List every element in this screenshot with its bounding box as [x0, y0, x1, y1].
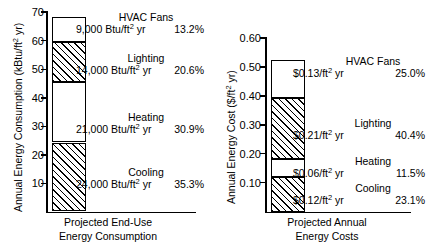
y-tick-label-040: 0.40	[229, 90, 261, 102]
y-tick-10	[41, 183, 46, 185]
annotation-lighting-value-suffix: yr	[140, 64, 152, 76]
annotation-heating-row: 21,000 Btu/ft2 yr30.9%	[76, 123, 216, 135]
y-axis-line	[46, 11, 48, 213]
annotation-lighting-row: $0.21/ft2 yr40.4%	[293, 129, 431, 141]
annotation-lighting-percent: 20.6%	[164, 64, 204, 76]
y-tick-50	[41, 69, 46, 71]
y-tick-20	[41, 154, 46, 156]
y-tick-030	[260, 124, 265, 126]
x-axis-caption-left: Projected End-Use Energy Consumption	[28, 216, 188, 243]
annotation-cooling: Cooling $0.12/ft2 yr23.1%	[293, 182, 431, 206]
annotation-heating-value: 21,000 Btu/ft	[76, 123, 136, 135]
annotation-cooling-percent: 23.1%	[385, 194, 425, 206]
annotation-hvac-fans-percent: 13.2%	[164, 23, 204, 35]
annotation-hvac-fans-value: $0.13/ft	[293, 67, 328, 79]
annotation-hvac-fans-value: 9,000 Btu/ft	[76, 23, 130, 35]
annotation-hvac-fans: HVAC Fans $0.13/ft2 yr25.0%	[293, 55, 431, 79]
annotation-heating-value: $0.06/ft	[293, 167, 328, 179]
annotation-cooling-percent: 35.3%	[164, 178, 204, 190]
y-tick-label-030: 0.30	[229, 119, 261, 131]
y-tick-label-020: 0.20	[229, 148, 261, 160]
annotation-cooling-row: 24,000 Btu/ft2 yr35.3%	[76, 178, 216, 190]
chart-energy-consumption: Annual Energy Consumption (kBtu/ft2 yr) …	[0, 0, 216, 252]
annotation-lighting-value-suffix: yr	[332, 129, 344, 141]
y-tick-label-010: 0.10	[229, 177, 261, 189]
annotation-cooling-label: Cooling	[76, 166, 216, 178]
y-tick-050	[260, 66, 265, 68]
annotation-cooling-label: Cooling	[293, 182, 431, 194]
x-axis-caption-left-line1: Projected End-Use	[64, 216, 152, 228]
annotation-hvac-fans-value-suffix: yr	[134, 23, 146, 35]
x-axis-caption-right-line2: Energy Costs	[295, 230, 358, 242]
annotation-hvac-fans-label: HVAC Fans	[76, 11, 216, 23]
y-tick-040	[260, 95, 265, 97]
y-tick-60	[41, 40, 46, 42]
annotation-lighting-value: 14,000 Btu/ft	[76, 64, 136, 76]
annotation-heating-label: Heating	[76, 111, 216, 123]
annotation-heating-percent: 11.5%	[385, 167, 425, 179]
y-axis-title-left-superscript: 2	[11, 38, 20, 42]
annotation-heating-percent: 30.9%	[164, 123, 204, 135]
chart-energy-cost: Annual Energy Cost ($/ft2 yr) 0.60 0.50 …	[215, 0, 431, 252]
annotation-lighting-label: Lighting	[293, 117, 431, 129]
annotation-cooling-row: $0.12/ft2 yr23.1%	[293, 194, 431, 206]
annotation-heating-row: $0.06/ft2 yr11.5%	[293, 167, 431, 179]
annotation-hvac-fans: HVAC Fans 9,000 Btu/ft2 yr13.2%	[76, 11, 216, 35]
annotation-heating: Heating $0.06/ft2 yr11.5%	[293, 155, 431, 179]
annotation-heating-value-suffix: yr	[332, 167, 344, 179]
y-tick-020	[260, 153, 265, 155]
annotation-heating: Heating 21,000 Btu/ft2 yr30.9%	[76, 111, 216, 135]
y-tick-060	[260, 37, 265, 39]
annotation-hvac-fans-percent: 25.0%	[385, 67, 425, 79]
annotation-lighting: Lighting $0.21/ft2 yr40.4%	[293, 117, 431, 141]
annotation-lighting: Lighting 14,000 Btu/ft2 yr20.6%	[76, 52, 216, 76]
annotation-heating-label: Heating	[293, 155, 431, 167]
annotation-cooling-value-suffix: yr	[332, 194, 344, 206]
annotation-lighting-row: 14,000 Btu/ft2 yr20.6%	[76, 64, 216, 76]
annotation-lighting-value: $0.21/ft	[293, 129, 328, 141]
y-tick-label-050: 0.50	[229, 61, 261, 73]
annotation-hvac-fans-row: 9,000 Btu/ft2 yr13.2%	[76, 23, 216, 35]
annotation-lighting-label: Lighting	[76, 52, 216, 64]
y-axis-line	[265, 37, 267, 213]
annotation-cooling-value-suffix: yr	[140, 178, 152, 190]
x-axis-caption-left-line2: Energy Consumption	[59, 230, 157, 242]
annotation-cooling: Cooling 24,000 Btu/ft2 yr35.3%	[76, 166, 216, 190]
annotation-heating-value-suffix: yr	[140, 123, 152, 135]
figure-root: Annual Energy Consumption (kBtu/ft2 yr) …	[0, 0, 431, 252]
x-axis-caption-right: Projected Annual Energy Costs	[247, 216, 407, 243]
annotation-cooling-value: $0.12/ft	[293, 194, 328, 206]
y-tick-010	[260, 182, 265, 184]
x-axis-caption-right-line1: Projected Annual	[287, 216, 366, 228]
y-tick-label-060: 0.60	[229, 32, 261, 44]
annotation-cooling-value: 24,000 Btu/ft	[76, 178, 136, 190]
annotation-hvac-fans-value-suffix: yr	[332, 67, 344, 79]
y-tick-40	[41, 97, 46, 99]
annotation-hvac-fans-row: $0.13/ft2 yr25.0%	[293, 67, 431, 79]
annotation-hvac-fans-label: HVAC Fans	[293, 55, 431, 67]
y-tick-70	[41, 11, 46, 13]
y-tick-30	[41, 126, 46, 128]
annotation-lighting-percent: 40.4%	[385, 129, 425, 141]
